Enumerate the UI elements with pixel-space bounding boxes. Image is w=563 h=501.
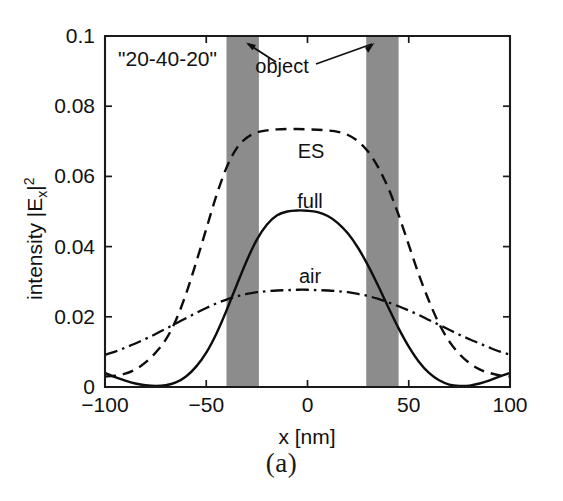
intensity-line-chart: −100−50050100 00.020.040.060.080.1 x [nm…	[0, 0, 563, 460]
y-axis-label: intensity |Ex|2	[21, 177, 50, 300]
y-tick-label: 0.08	[54, 94, 95, 117]
y-axis-label-main: intensity |E	[23, 198, 46, 300]
curve-label-air: air	[299, 265, 322, 287]
x-tick-label: 100	[492, 393, 527, 416]
inline-title: "20-40-20"	[118, 47, 217, 70]
x-tick-labels: −100−50050100	[81, 393, 527, 416]
y-tick-label: 0.04	[54, 235, 95, 258]
y-tick-label: 0.1	[66, 24, 95, 47]
x-tick-label: −50	[188, 393, 224, 416]
object-bar-right	[366, 37, 398, 387]
figure-panel: −100−50050100 00.020.040.060.080.1 x [nm…	[0, 0, 563, 501]
curve-label-full: full	[297, 190, 323, 212]
x-tick-label: 50	[397, 393, 420, 416]
y-axis-label-sup: 2	[21, 177, 37, 185]
y-axis-label-sub: x	[34, 191, 50, 198]
y-tick-label: 0	[83, 375, 95, 398]
object-bar-left	[227, 37, 259, 387]
x-axis-label: x [nm]	[278, 425, 335, 448]
svg-text:intensity |Ex|2: intensity |Ex|2	[21, 177, 50, 300]
y-tick-label: 0.06	[54, 164, 95, 187]
object-annotation-label: object	[255, 55, 309, 77]
y-tick-labels: 00.020.040.060.080.1	[54, 24, 95, 398]
y-tick-label: 0.02	[54, 305, 95, 328]
figure-caption: (a)	[0, 448, 563, 479]
x-tick-label: 0	[302, 393, 314, 416]
curve-label-es: ES	[298, 140, 325, 162]
